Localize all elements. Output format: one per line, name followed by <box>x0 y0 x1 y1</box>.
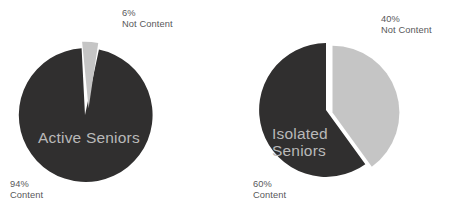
isolated-content-callout: 60% Content <box>253 179 286 202</box>
active-content-category: Content <box>10 190 43 201</box>
chart-isolated-seniors: 40% Not Content 60% Content Isolated Sen… <box>230 0 460 213</box>
isolated-not-content-percent: 40% <box>381 14 432 25</box>
active-seniors-title-line1: Active Seniors <box>38 129 140 146</box>
active-seniors-inner-label: Active Seniors <box>38 129 140 146</box>
active-not-content-category: Not Content <box>122 19 173 30</box>
chart-active-seniors: 6% Not Content 94% Content Active Senior… <box>0 0 230 213</box>
isolated-seniors-title-line2: Seniors <box>272 142 328 159</box>
active-not-content-percent: 6% <box>122 8 173 19</box>
active-not-content-callout: 6% Not Content <box>122 8 173 31</box>
isolated-content-percent: 60% <box>253 179 286 190</box>
pie-chart-figure: 6% Not Content 94% Content Active Senior… <box>0 0 460 213</box>
isolated-seniors-inner-label: Isolated Seniors <box>272 125 328 159</box>
active-content-percent: 94% <box>10 179 43 190</box>
isolated-not-content-category: Not Content <box>381 25 432 36</box>
active-content-callout: 94% Content <box>10 179 43 202</box>
isolated-not-content-callout: 40% Not Content <box>381 14 432 37</box>
isolated-content-category: Content <box>253 190 286 201</box>
isolated-seniors-title-line1: Isolated <box>272 125 328 142</box>
